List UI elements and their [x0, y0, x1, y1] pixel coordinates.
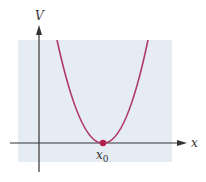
- diagram-svg: V x x0: [0, 0, 206, 182]
- shaded-panel: [18, 40, 172, 162]
- min-point-label-subscript: 0: [103, 154, 109, 164]
- x-axis-arrow-icon: [177, 140, 187, 146]
- y-axis-label: V: [35, 9, 45, 23]
- minimum-point: [100, 140, 106, 146]
- x-axis-label: x: [191, 136, 198, 150]
- y-axis-arrow-icon: [36, 25, 42, 35]
- potential-energy-diagram: V x x0: [0, 0, 206, 182]
